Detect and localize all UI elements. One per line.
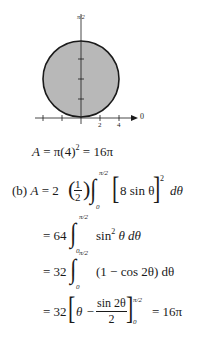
equals: = — [42, 183, 49, 198]
theta-dtheta: θ dθ — [118, 228, 141, 243]
equals: = — [83, 144, 90, 159]
integrand: 8 sin θ — [120, 184, 154, 197]
upper-limit: π/2 — [79, 213, 88, 221]
part-b-label: (b) — [12, 183, 27, 198]
coefficient: 2 — [52, 183, 59, 198]
integral-sign: ∫ — [90, 173, 96, 206]
pi-expression: π(4) — [54, 144, 76, 159]
lower-limit: 0 — [76, 283, 80, 291]
lower-limit: 0 — [133, 318, 137, 326]
bracket-open: [ — [68, 291, 75, 327]
equals: = — [43, 144, 50, 159]
tick-label-4: 4 — [117, 122, 121, 129]
coefficient: 32 — [54, 264, 67, 279]
equals: = — [152, 304, 159, 319]
part-a-equation: A = π(4)2 = 16π — [32, 145, 113, 158]
step-3-integrand: (1 − cos 2θ) dθ — [96, 265, 174, 278]
upper-limit: π/2 — [79, 249, 88, 257]
fraction-denominator: 2 — [74, 191, 82, 203]
step-3-coef: = 32 — [43, 265, 67, 278]
sin-function: sin — [96, 228, 111, 243]
area-symbol: A — [32, 144, 40, 159]
equals: = — [43, 264, 50, 279]
one-half-fraction: 1 2 — [74, 178, 82, 203]
result-value: 16π — [163, 304, 183, 319]
step-2-integrand: sin2 θ dθ — [96, 229, 141, 242]
fraction-denominator: 2 — [96, 312, 127, 327]
result-value: 16π — [93, 144, 113, 159]
polar-axis-arrow-icon — [131, 115, 138, 121]
theta-minus: θ − — [76, 305, 94, 318]
exponent: 2 — [111, 227, 115, 236]
bracket-open: [ — [112, 171, 119, 207]
equals: = — [43, 228, 50, 243]
lower-limit: 0 — [96, 203, 100, 211]
step-2-coef: = 64 — [43, 229, 67, 242]
sin-2theta-over-2: sin 2θ 2 — [96, 296, 127, 327]
upper-limit: π/2 — [133, 296, 142, 304]
integral-sign: ∫ — [70, 253, 76, 286]
tick-label-2: 2 — [98, 122, 102, 129]
area-symbol: A — [30, 183, 38, 198]
fraction-numerator: sin 2θ — [96, 296, 127, 312]
upper-limit: π/2 — [99, 169, 108, 177]
d-theta: dθ — [170, 184, 183, 197]
fraction-numerator: 1 — [74, 178, 82, 191]
axis-right-label: 0 — [140, 113, 144, 121]
axis-top-label: π/2 — [77, 14, 85, 20]
step-4-result: = 16π — [152, 305, 182, 318]
exponent: 2 — [76, 143, 80, 152]
part-b-line-1: (b) A = 2 — [12, 184, 59, 197]
coefficient: 32 — [54, 304, 67, 319]
equals: = — [43, 304, 50, 319]
polar-graph-figure — [0, 0, 197, 130]
coefficient: 64 — [54, 228, 67, 243]
power: 2 — [160, 174, 164, 183]
integral-sign: ∫ — [70, 217, 76, 250]
step-4-coef: = 32 — [43, 305, 67, 318]
